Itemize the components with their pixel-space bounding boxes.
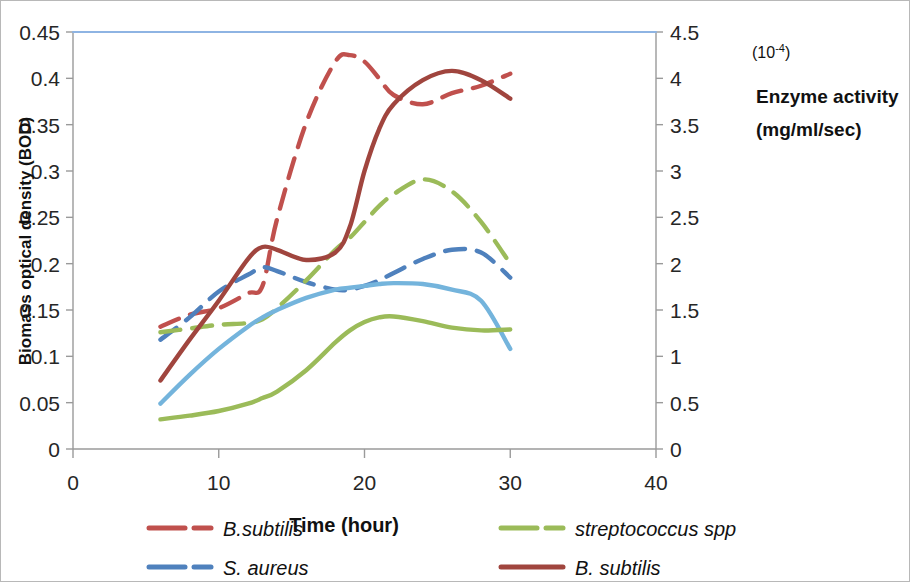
y-tick-label-left: 0.1 xyxy=(31,345,60,368)
series-line-b-subtilis xyxy=(160,71,510,381)
y-tick-label-right: 4.5 xyxy=(670,21,699,44)
x-tick-label: 40 xyxy=(644,471,667,494)
legend-item[interactable]: streptococcus spp xyxy=(501,518,736,540)
legend-label: S. aureus xyxy=(223,557,309,579)
chart-canvas: 00.050.10.150.20.250.30.350.40.4500.511.… xyxy=(1,1,910,582)
y-tick-label-left: 0.05 xyxy=(19,392,60,415)
series-line-enzyme-green xyxy=(160,316,510,419)
legend-label: B.subtilis xyxy=(223,518,303,540)
y-tick-label-left: 0.2 xyxy=(31,253,60,276)
x-tick-label: 10 xyxy=(207,471,230,494)
y-axis-right-title-line2: (mg/ml/sec) xyxy=(756,119,862,140)
x-tick-label: 30 xyxy=(499,471,522,494)
series-layer xyxy=(73,32,656,419)
x-tick-label: 0 xyxy=(67,471,79,494)
y-axis-right-scale-note-text: (10-4) xyxy=(752,42,790,61)
y-tick-label-right: 2.5 xyxy=(670,206,699,229)
x-tick-label: 20 xyxy=(353,471,376,494)
legend-label: streptococcus spp xyxy=(575,518,736,540)
axis-layer xyxy=(66,32,663,458)
y-axis-right-title-line1: Enzyme activity xyxy=(756,86,899,107)
legend-item[interactable]: B.subtilis xyxy=(149,518,303,540)
y-axis-left-title: Biomass optical density (BOD) xyxy=(16,117,35,365)
y-tick-label-right: 3.5 xyxy=(670,114,699,137)
y-tick-label-right: 3 xyxy=(670,160,682,183)
chart-figure: 00.050.10.150.20.250.30.350.40.4500.511.… xyxy=(0,0,910,582)
y-tick-label-right: 1.5 xyxy=(670,299,699,322)
y-tick-label-left: 0.3 xyxy=(31,160,60,183)
legend-layer: B.subtilisstreptococcus sppS. aureusB. s… xyxy=(149,518,736,579)
y-tick-label-left: 0 xyxy=(48,438,60,461)
legend-item[interactable]: S. aureus xyxy=(149,557,309,579)
y-tick-label-left: 0.4 xyxy=(31,67,61,90)
y-tick-label-right: 1 xyxy=(670,345,682,368)
legend-label: B. subtilis xyxy=(575,557,661,579)
y-tick-label-left: 0.45 xyxy=(19,21,60,44)
label-layer: 00.050.10.150.20.250.30.350.40.4500.511.… xyxy=(16,21,899,536)
legend-item[interactable]: B. subtilis xyxy=(501,557,661,579)
x-axis-title: Time (hour) xyxy=(289,514,399,536)
y-tick-label-right: 4 xyxy=(670,67,682,90)
y-tick-label-right: 0 xyxy=(670,438,682,461)
chart-svg: 00.050.10.150.20.250.30.350.40.4500.511.… xyxy=(1,1,910,582)
y-tick-label-right: 2 xyxy=(670,253,682,276)
y-tick-label-right: 0.5 xyxy=(670,392,699,415)
series-line-b-subtilis xyxy=(160,54,510,327)
